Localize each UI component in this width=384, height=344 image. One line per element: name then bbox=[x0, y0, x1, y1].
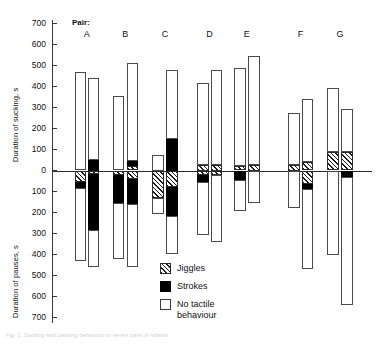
legend-label-no-tactile: No tactile behaviour bbox=[177, 299, 217, 321]
pair-label-b: B bbox=[115, 29, 135, 39]
bar-a-infant1 bbox=[75, 0, 86, 344]
bar-segment-pauses-jiggles bbox=[152, 171, 164, 198]
bar-segment-pauses-none bbox=[302, 189, 314, 269]
y-axis-tick-label-neg-300: 300 bbox=[20, 229, 46, 238]
bar-segment-pauses-none bbox=[127, 204, 138, 267]
bar-segment-pauses-jiggles bbox=[166, 171, 178, 188]
bar-segment-sucking-none bbox=[152, 155, 164, 171]
bar-segment-sucking-jiggles bbox=[302, 162, 314, 170]
y-axis-tick-label-pos-500: 500 bbox=[20, 61, 46, 70]
bar-segment-sucking-none bbox=[211, 70, 223, 166]
y-axis-tick-pos-300 bbox=[53, 107, 57, 108]
bar-segment-sucking-none bbox=[197, 83, 209, 165]
y-axis-tick-pos-700 bbox=[53, 23, 57, 24]
y-axis-tick-zero bbox=[53, 170, 57, 171]
bar-segment-sucking-none bbox=[88, 78, 99, 160]
bar-segment-pauses-jiggles bbox=[302, 171, 314, 185]
y-axis-tick-neg-500 bbox=[53, 275, 57, 276]
bar-segment-sucking-none bbox=[234, 68, 246, 167]
y-axis-tick-label-pos-300: 300 bbox=[20, 103, 46, 112]
legend-swatch-strokes-icon bbox=[160, 281, 171, 292]
y-axis-tick-pos-500 bbox=[53, 65, 57, 66]
bar-segment-sucking-strokes bbox=[88, 160, 99, 171]
bar-segment-pauses-none bbox=[234, 180, 246, 212]
y-axis-tick-label-neg-600: 600 bbox=[20, 292, 46, 301]
bar-segment-pauses-none bbox=[327, 171, 339, 255]
y-axis-tick-label-zero: 0 bbox=[20, 166, 46, 175]
bar-segment-pauses-strokes bbox=[88, 174, 99, 231]
y-axis-tick-neg-200 bbox=[53, 212, 57, 213]
bar-segment-sucking-none bbox=[248, 56, 260, 165]
bar-segment-pauses-none bbox=[211, 175, 223, 242]
legend: Jiggles Strokes No tactile behaviour bbox=[160, 262, 320, 314]
y-axis-tick-pos-400 bbox=[53, 86, 57, 87]
bar-segment-pauses-strokes bbox=[234, 171, 246, 180]
bar-segment-pauses-none bbox=[75, 188, 86, 260]
bar-segment-sucking-none bbox=[127, 63, 138, 161]
bar-segment-pauses-jiggles bbox=[127, 171, 138, 179]
pair-label-e: E bbox=[237, 29, 257, 39]
y-axis-tick-neg-600 bbox=[53, 296, 57, 297]
bar-segment-pauses-strokes bbox=[127, 179, 138, 204]
pair-label-g: G bbox=[330, 29, 350, 39]
y-axis-tick-pos-100 bbox=[53, 149, 57, 150]
y-axis-tick-label-pos-200: 200 bbox=[20, 124, 46, 133]
pair-label-f: F bbox=[291, 29, 311, 39]
bar-segment-sucking-jiggles bbox=[327, 152, 339, 171]
bar-segment-sucking-strokes bbox=[127, 161, 138, 166]
bar-segment-pauses-strokes bbox=[166, 187, 178, 215]
bar-segment-sucking-none bbox=[288, 113, 300, 166]
bar-a-infant2 bbox=[88, 0, 99, 344]
bar-g-infant2 bbox=[341, 0, 353, 344]
bar-segment-pauses-none bbox=[152, 198, 164, 214]
pair-label-c: C bbox=[155, 29, 175, 39]
bar-segment-sucking-strokes bbox=[166, 139, 178, 171]
bar-b-infant1 bbox=[113, 0, 124, 344]
y-axis-tick-neg-700 bbox=[53, 317, 57, 318]
y-axis-tick-neg-100 bbox=[53, 191, 57, 192]
bar-segment-pauses-none bbox=[166, 216, 178, 255]
bar-segment-pauses-none bbox=[197, 182, 209, 235]
bar-segment-pauses-none bbox=[88, 230, 99, 267]
bar-segment-pauses-none bbox=[113, 203, 124, 259]
bar-segment-pauses-jiggles bbox=[75, 171, 86, 183]
legend-swatch-no-tactile-icon bbox=[160, 299, 171, 310]
pair-label-d: D bbox=[200, 29, 220, 39]
legend-label-jiggles: Jiggles bbox=[177, 263, 205, 274]
y-axis-tick-label-pos-100: 100 bbox=[20, 145, 46, 154]
legend-swatch-jiggles-icon bbox=[160, 263, 171, 274]
bar-segment-sucking-none bbox=[341, 109, 353, 152]
legend-label-strokes: Strokes bbox=[177, 281, 208, 292]
bar-segment-pauses-none bbox=[248, 171, 260, 204]
y-axis-tick-label-pos-700: 700 bbox=[20, 19, 46, 28]
bar-b-infant2 bbox=[127, 0, 138, 344]
y-axis-tick-label-pos-400: 400 bbox=[20, 82, 46, 91]
figure-root: Duration of sucking, s Duration of pause… bbox=[0, 0, 384, 344]
bar-segment-sucking-none bbox=[113, 96, 124, 171]
y-axis-tick-label-neg-500: 500 bbox=[20, 271, 46, 280]
bar-segment-pauses-none bbox=[288, 171, 300, 209]
y-axis-tick-neg-400 bbox=[53, 254, 57, 255]
pair-label-a: A bbox=[77, 29, 97, 39]
bar-segment-pauses-strokes bbox=[197, 175, 209, 182]
bar-segment-sucking-none bbox=[75, 72, 86, 171]
y-axis-tick-pos-200 bbox=[53, 128, 57, 129]
y-axis-tick-label-neg-100: 100 bbox=[20, 187, 46, 196]
figure-caption: Fig. 2. Sucking and pausing behaviour in… bbox=[6, 332, 169, 338]
y-axis-tick-label-pos-600: 600 bbox=[20, 40, 46, 49]
y-axis-tick-label-neg-700: 700 bbox=[20, 313, 46, 322]
y-axis-title-sucking: Duration of sucking, s bbox=[11, 88, 20, 162]
y-axis-title-pauses: Duration of pauses, s bbox=[11, 245, 20, 318]
bar-segment-pauses-strokes bbox=[113, 175, 124, 203]
y-axis-tick-label-neg-200: 200 bbox=[20, 208, 46, 217]
bar-segment-sucking-none bbox=[166, 70, 178, 139]
bar-segment-sucking-jiggles bbox=[341, 152, 353, 171]
bar-segment-sucking-none bbox=[302, 99, 314, 162]
y-axis-tick-label-neg-400: 400 bbox=[20, 250, 46, 259]
bar-segment-pauses-none bbox=[341, 177, 353, 305]
bar-g-infant1 bbox=[327, 0, 339, 344]
bar-segment-sucking-none bbox=[327, 88, 339, 152]
y-axis-tick-pos-600 bbox=[53, 44, 57, 45]
y-axis-tick-neg-300 bbox=[53, 233, 57, 234]
